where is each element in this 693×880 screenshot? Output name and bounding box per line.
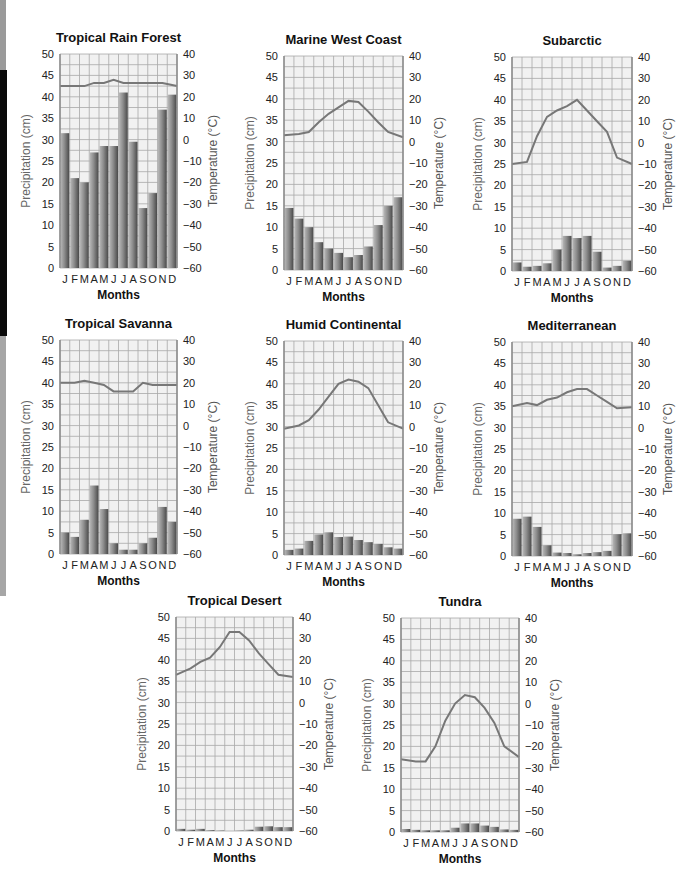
right-tick-label: −50 [525, 805, 544, 817]
month-tick-label: N [500, 837, 508, 849]
y-axis-label-precipitation: Precipitation (cm) [360, 678, 374, 771]
precipitation-bar [431, 830, 440, 832]
precipitation-bar [470, 823, 479, 832]
left-tick-label: 10 [383, 783, 395, 795]
precipitation-bar [480, 826, 489, 832]
month-tick-label: S [481, 837, 488, 849]
y-axis-label-temperature: Temperature (°C) [548, 679, 562, 771]
left-tick-label: 30 [383, 698, 395, 710]
left-tick-label: 50 [383, 612, 395, 624]
precipitation-bar [441, 830, 450, 832]
left-tick-label: 0 [389, 826, 395, 838]
right-tick-label: −10 [525, 719, 544, 731]
right-tick-label: 10 [525, 676, 537, 688]
month-tick-label: F [412, 837, 419, 849]
x-axis-label: Months [439, 852, 482, 866]
month-tick-label: M [441, 837, 450, 849]
precipitation-bar [500, 829, 509, 832]
grid-lines [401, 618, 519, 832]
right-tick-label: 30 [525, 633, 537, 645]
right-tick-label: −20 [525, 740, 544, 752]
precipitation-bar [451, 828, 460, 832]
left-tick-label: 35 [383, 676, 395, 688]
left-tick-label: 15 [383, 762, 395, 774]
month-tick-label: M [421, 837, 430, 849]
right-tick-label: 0 [525, 698, 531, 710]
right-tick-label: −40 [525, 783, 544, 795]
right-tick-label: −30 [525, 762, 544, 774]
month-tick-label: J [452, 837, 458, 849]
month-tick-label: A [432, 837, 440, 849]
right-tick-label: 40 [525, 612, 537, 624]
left-tick-label: 40 [383, 655, 395, 667]
precipitation-bar [411, 830, 420, 832]
left-tick-label: 25 [383, 719, 395, 731]
precipitation-bar [461, 823, 470, 832]
right-tick-label: −60 [525, 826, 544, 838]
chart-title: Tundra [438, 594, 482, 609]
month-tick-label: D [510, 837, 518, 849]
month-tick-label: O [490, 837, 499, 849]
precipitation-bar [402, 829, 411, 832]
left-tick-label: 45 [383, 633, 395, 645]
precipitation-bar [490, 827, 499, 832]
precipitation-bar [421, 830, 430, 832]
left-tick-label: 5 [389, 805, 395, 817]
month-tick-label: J [462, 837, 468, 849]
month-tick-label: J [403, 837, 409, 849]
month-tick-label: A [471, 837, 479, 849]
left-tick-label: 20 [383, 740, 395, 752]
precipitation-bar [510, 830, 519, 832]
right-tick-label: 20 [525, 655, 537, 667]
chart-svg: Tundra05101520253035404550−60−50−40−30−2… [0, 0, 693, 880]
